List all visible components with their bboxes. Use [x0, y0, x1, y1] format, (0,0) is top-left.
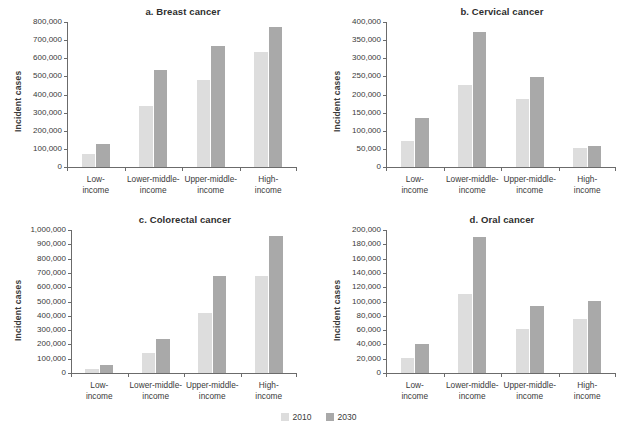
cat-label-line1: Low- — [90, 380, 108, 390]
four-panel-bar-chart-figure: a. Breast cancer Incident cases 0100,000… — [0, 0, 637, 436]
x-tick-mark — [559, 167, 560, 171]
y-tick-mark — [383, 359, 386, 360]
y-tick-label: 250,000 — [352, 72, 381, 80]
bar-2030-lower-middle-income — [473, 237, 487, 373]
bar-2030-low-income — [415, 344, 429, 373]
cat-label-line2: income — [82, 185, 109, 195]
bar-2010-lower-middle-income — [142, 353, 155, 373]
cat-label-line2: income — [140, 185, 167, 195]
plot-area: 020,00040,00060,00080,000100,000120,0001… — [386, 230, 616, 373]
bar-2010-low-income — [82, 154, 96, 167]
plot-area: 0100,000200,000300,000400,000500,000600,… — [67, 22, 297, 167]
y-tick-mark — [383, 149, 386, 150]
cat-label-line2: income — [199, 391, 226, 401]
y-tick-label: 400,000 — [33, 91, 62, 99]
y-tick-label: 300,000 — [352, 54, 381, 62]
bar-2030-upper-middle-income — [211, 46, 225, 167]
y-tick-label: 100,000 — [33, 145, 62, 153]
y-tick-label: 0 — [377, 369, 381, 377]
y-tick-label: 400,000 — [352, 18, 381, 26]
x-tick-mark — [125, 167, 126, 171]
y-tick-mark — [68, 230, 71, 231]
y-tick-mark — [383, 316, 386, 317]
cat-label-line1: High- — [259, 380, 279, 390]
bar-2030-upper-middle-income — [530, 77, 544, 167]
y-tick-mark — [383, 259, 386, 260]
cat-label-line1: High- — [577, 380, 597, 390]
y-axis-label: Incident cases — [332, 280, 342, 341]
bar-2010-high-income — [254, 52, 268, 167]
y-tick-label: 160,000 — [352, 255, 381, 263]
y-tick-mark — [68, 316, 71, 317]
y-tick-mark — [383, 230, 386, 231]
y-axis-label: Incident cases — [13, 280, 23, 341]
y-tick-label: 150,000 — [352, 109, 381, 117]
y-tick-label: 180,000 — [352, 240, 381, 248]
y-tick-mark — [68, 287, 71, 288]
plot-area: 050,000100,000150,000200,000250,000300,0… — [386, 22, 616, 167]
chart-legend: 2010 2030 — [0, 412, 637, 422]
x-tick-mark — [444, 373, 445, 377]
y-tick-label: 500,000 — [37, 298, 66, 306]
y-tick-label: 600,000 — [37, 283, 66, 291]
y-tick-mark — [383, 76, 386, 77]
y-tick-label: 0 — [58, 163, 62, 171]
cat-label-line2: income — [574, 391, 601, 401]
panel-colorectal-cancer: c. Colorectal cancer Incident cases 0100… — [0, 208, 318, 413]
bar-2030-low-income — [96, 144, 110, 167]
x-tick-mark — [67, 167, 68, 171]
x-tick-mark — [71, 373, 72, 377]
panel-title: b. Cervical cancer — [319, 6, 637, 17]
y-tick-mark — [383, 40, 386, 41]
legend-item-2010: 2010 — [281, 412, 312, 422]
y-tick-mark — [68, 244, 71, 245]
y-tick-mark — [68, 302, 71, 303]
y-axis-line — [386, 230, 387, 373]
bar-2010-lower-middle-income — [458, 85, 472, 167]
cat-label-line2: income — [86, 391, 113, 401]
cat-label-line1: Low- — [406, 174, 424, 184]
y-tick-label: 1,000,000 — [30, 226, 66, 234]
y-tick-label: 140,000 — [352, 269, 381, 277]
y-tick-label: 300,000 — [37, 326, 66, 334]
y-axis-label: Incident cases — [332, 71, 342, 132]
bar-2030-high-income — [269, 27, 283, 167]
bar-2010-high-income — [573, 148, 587, 167]
y-tick-label: 700,000 — [37, 269, 66, 277]
panel-oral-cancer: d. Oral cancer Incident cases 020,00040,… — [319, 208, 637, 413]
y-tick-mark — [383, 95, 386, 96]
panel-breast-cancer: a. Breast cancer Incident cases 0100,000… — [0, 0, 318, 205]
y-tick-label: 80,000 — [357, 312, 381, 320]
y-tick-label: 700,000 — [33, 36, 62, 44]
panel-cervical-cancer: b. Cervical cancer Incident cases 050,00… — [319, 0, 637, 205]
cat-label-line2: income — [255, 391, 282, 401]
bar-2010-low-income — [401, 358, 415, 373]
cat-label-line1: High- — [258, 174, 278, 184]
x-tick-mark — [128, 373, 129, 377]
bar-2010-low-income — [401, 141, 415, 167]
y-tick-mark — [64, 149, 67, 150]
y-tick-label: 350,000 — [352, 36, 381, 44]
y-tick-label: 100,000 — [352, 127, 381, 135]
cat-label-line2: income — [574, 185, 601, 195]
y-tick-label: 60,000 — [357, 326, 381, 334]
y-tick-mark — [64, 95, 67, 96]
y-tick-mark — [383, 113, 386, 114]
x-tick-mark — [501, 373, 502, 377]
x-category-label: High-income — [546, 174, 629, 196]
bar-2030-upper-middle-income — [213, 276, 226, 373]
bar-2010-low-income — [85, 369, 98, 373]
cat-label-line2: income — [142, 391, 169, 401]
bar-2030-low-income — [415, 118, 429, 167]
y-tick-label: 0 — [377, 163, 381, 171]
bar-2030-high-income — [588, 146, 602, 167]
y-axis-label: Incident cases — [13, 71, 23, 132]
y-tick-label: 100,000 — [352, 298, 381, 306]
bar-2030-lower-middle-income — [156, 339, 169, 373]
cat-label-line2: income — [459, 391, 486, 401]
x-tick-mark — [296, 373, 297, 377]
cat-label-line2: income — [401, 185, 428, 195]
cat-label-line1: Low- — [406, 380, 424, 390]
bar-2010-lower-middle-income — [458, 294, 472, 373]
x-tick-mark — [615, 167, 616, 171]
